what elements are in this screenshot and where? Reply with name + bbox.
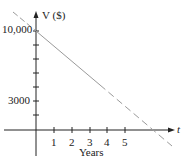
- y-axis-label: V ($): [42, 10, 65, 21]
- x-tick-label-4: 4: [104, 137, 110, 148]
- value-line: [36, 31, 100, 85]
- y-axis-arrow-icon: [34, 11, 39, 18]
- x-tick-label-5: 5: [122, 137, 128, 148]
- x-axis-arrow-icon: [168, 128, 175, 133]
- y-tick-label-10000: 10,000: [2, 24, 32, 35]
- x-tick-label-2: 2: [69, 137, 75, 148]
- y-tick-label-3000: 3000: [8, 95, 30, 106]
- x-axis-symbol: t: [177, 124, 180, 135]
- dashed-extension-right: [100, 85, 172, 146]
- x-axis-title: Years: [79, 147, 104, 158]
- x-tick-label-1: 1: [51, 137, 57, 148]
